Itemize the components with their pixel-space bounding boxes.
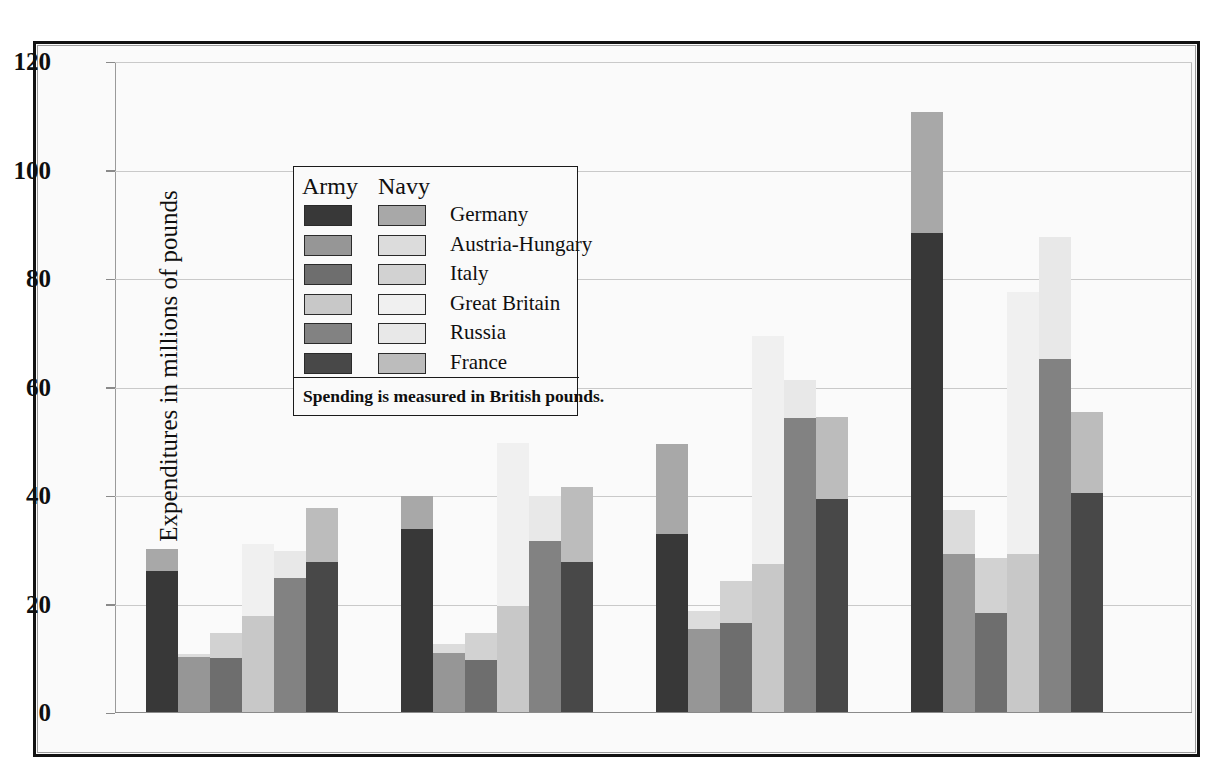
bar-great-britain-1900	[497, 443, 529, 713]
bar-segment-navy	[911, 112, 943, 232]
bar-segment-navy	[433, 644, 465, 654]
legend-swatch-army-russia	[304, 323, 352, 344]
bar-france-1900	[561, 487, 593, 713]
legend-label: Great Britain	[450, 291, 560, 316]
bar-russia-1910	[784, 380, 816, 713]
bar-segment-army	[816, 499, 848, 713]
y-tick-mark	[106, 170, 115, 172]
y-tick-label-60: 60	[0, 375, 51, 400]
bar-segment-army	[465, 660, 497, 713]
legend-label: Italy	[450, 261, 488, 286]
legend-swatch-army-great-britain	[304, 294, 352, 315]
legend-label: Russia	[450, 320, 506, 345]
bar-segment-navy	[943, 510, 975, 554]
legend-row-russia: Russia	[302, 319, 574, 349]
bar-segment-navy	[688, 611, 720, 629]
legend-swatch-navy-germany	[378, 205, 426, 226]
bar-segment-army	[401, 529, 433, 713]
y-tick-mark	[106, 604, 115, 606]
chart-legend: Army Navy GermanyAustria-HungaryItalyGre…	[293, 166, 578, 416]
legend-swatch-navy-great-britain	[378, 294, 426, 315]
bar-segment-navy	[1039, 237, 1071, 359]
bar-segment-navy	[465, 633, 497, 660]
y-tick-mark	[106, 713, 115, 715]
bar-segment-navy	[561, 487, 593, 562]
y-tick-label-120: 120	[0, 49, 51, 74]
bar-france-1890	[306, 508, 338, 713]
bar-segment-navy	[752, 336, 784, 564]
bar-segment-army	[752, 564, 784, 713]
y-axis-title: Expenditures in millions of pounds	[155, 66, 183, 666]
bar-segment-navy	[1007, 292, 1039, 555]
bar-segment-army	[497, 606, 529, 713]
bar-segment-army	[688, 629, 720, 713]
y-tick-mark	[106, 62, 115, 64]
bar-segment-army	[943, 554, 975, 713]
y-tick-label-20: 20	[0, 592, 51, 617]
legend-note-text: Spending is measured in British pounds.	[303, 386, 604, 407]
bar-great-britain-1914	[1007, 291, 1039, 713]
bar-segment-army	[274, 578, 306, 713]
bar-segment-army	[1039, 359, 1071, 713]
legend-row-great-britain: Great Britain	[302, 290, 574, 320]
bar-segment-navy	[401, 496, 433, 529]
legend-note: Spending is measured in British pounds.	[294, 377, 579, 416]
bar-italy-1914	[975, 558, 1007, 713]
bar-great-britain-1910	[752, 336, 784, 713]
bar-segment-navy	[656, 444, 688, 534]
legend-row-italy: Italy	[302, 260, 574, 290]
y-tick-label-80: 80	[0, 266, 51, 291]
bar-segment-army	[911, 233, 943, 713]
bar-segment-army	[561, 562, 593, 713]
legend-swatch-army-italy	[304, 264, 352, 285]
legend-row-germany: Germany	[302, 201, 574, 231]
legend-swatch-navy-france	[378, 353, 426, 374]
bar-italy-1900	[465, 633, 497, 713]
bar-segment-navy	[306, 508, 338, 562]
bar-segment-navy	[529, 496, 561, 540]
bar-segment-navy	[975, 558, 1007, 612]
bar-segment-navy	[274, 551, 306, 579]
legend-swatch-army-france	[304, 353, 352, 374]
legend-label: France	[450, 350, 507, 375]
gridline	[115, 62, 1192, 63]
bar-great-britain-1890	[242, 544, 274, 713]
bar-austria-hungary-1914	[943, 510, 975, 713]
bar-italy-1910	[720, 581, 752, 713]
bar-segment-army	[656, 534, 688, 713]
bar-segment-army	[1007, 554, 1039, 713]
bar-segment-army	[306, 562, 338, 713]
bar-russia-1900	[529, 496, 561, 713]
plot-area: 020406080100120 1890190019101914 Expendi…	[115, 62, 1192, 713]
legend-swatch-navy-italy	[378, 264, 426, 285]
bar-segment-navy	[720, 581, 752, 623]
legend-label: Austria-Hungary	[450, 232, 592, 257]
bar-segment-navy	[784, 380, 816, 417]
bar-segment-navy	[1071, 412, 1103, 492]
legend-header-army: Army	[302, 174, 358, 198]
bar-segment-navy	[242, 544, 274, 616]
legend-label: Germany	[450, 202, 528, 227]
bar-segment-army	[433, 653, 465, 713]
figure-canvas: 020406080100120 1890190019101914 Expendi…	[0, 0, 1229, 783]
bar-segment-army	[720, 623, 752, 713]
bar-segment-navy	[497, 443, 529, 606]
bar-austria-hungary-1910	[688, 611, 720, 713]
legend-swatch-army-germany	[304, 205, 352, 226]
legend-row-austria-hungary: Austria-Hungary	[302, 231, 574, 261]
y-tick-mark	[106, 496, 115, 498]
bar-austria-hungary-1900	[433, 644, 465, 713]
bar-segment-army	[529, 541, 561, 714]
legend-header-navy: Navy	[378, 174, 430, 198]
x-axis-line	[115, 712, 1192, 714]
bar-germany-1910	[656, 444, 688, 713]
bar-germany-1914	[911, 112, 943, 713]
bar-segment-navy	[816, 417, 848, 498]
bar-russia-1890	[274, 551, 306, 713]
bar-segment-army	[242, 616, 274, 713]
y-tick-label-40: 40	[0, 483, 51, 508]
bar-segment-army	[1071, 493, 1103, 713]
gridline	[115, 171, 1192, 172]
bar-france-1914	[1071, 412, 1103, 713]
bar-segment-navy	[210, 633, 242, 658]
